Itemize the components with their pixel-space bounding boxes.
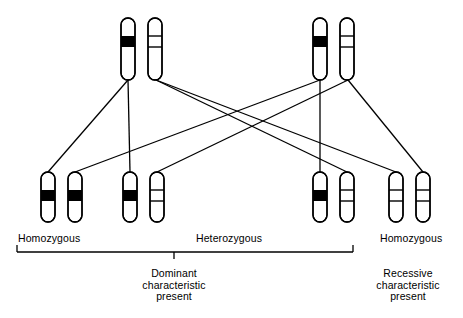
chromosome-recessive	[340, 18, 354, 80]
chromosome-recessive	[340, 172, 354, 222]
chromosome-dominant	[68, 172, 82, 222]
caption-line: present	[114, 291, 234, 303]
connector-c2	[128, 80, 130, 172]
offspring-pair-offspring-3	[313, 172, 354, 222]
connector-c5	[75, 80, 320, 172]
chromosome-recessive	[148, 18, 162, 80]
zygosity-label-left: Homozygous	[18, 233, 80, 245]
dominant-bracket	[17, 245, 353, 259]
caption-dominant: Dominantcharacteristicpresent	[114, 268, 234, 303]
chromosomes-layer	[41, 18, 430, 222]
dominant-band	[123, 190, 137, 201]
zygosity-label-right: Homozygous	[380, 233, 442, 245]
chromosome-recessive	[416, 172, 430, 222]
offspring-pair-offspring-1	[41, 172, 82, 222]
caption-line: Dominant	[114, 268, 234, 280]
parent-pair-parent-left	[121, 18, 162, 80]
caption-line: present	[348, 291, 463, 303]
caption-line: Recessive	[348, 268, 463, 280]
chromosome-recessive	[150, 172, 164, 222]
bracket-layer	[17, 245, 353, 259]
parent-pair-parent-right	[313, 18, 354, 80]
chromosome-recessive	[389, 172, 403, 222]
zygosity-label-center: Heterozygous	[196, 233, 262, 245]
chromosome-dominant	[123, 172, 137, 222]
dominant-band	[313, 190, 327, 201]
chromosome-dominant	[313, 172, 327, 222]
caption-recessive: Recessivecharacteristicpresent	[348, 268, 463, 303]
connector-lines	[48, 80, 423, 172]
chromosome-dominant	[313, 18, 327, 80]
dominant-band	[68, 190, 82, 201]
dominant-band	[313, 36, 327, 47]
chromosome-dominant	[121, 18, 135, 80]
offspring-pair-offspring-4	[389, 172, 430, 222]
dominant-band	[121, 36, 135, 47]
offspring-pair-offspring-2	[123, 172, 164, 222]
connector-c1	[48, 80, 128, 172]
dominant-band	[41, 190, 55, 201]
chromosome-dominant	[41, 172, 55, 222]
